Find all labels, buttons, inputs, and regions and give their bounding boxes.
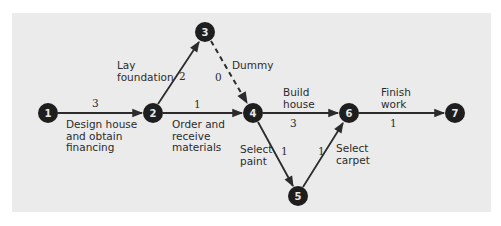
duration-2-3: 2: [179, 70, 186, 82]
svg-text:2: 2: [150, 108, 157, 119]
activity-label-select-paint: Select paint: [240, 144, 272, 167]
node-1: 1: [38, 103, 58, 123]
network-diagram: 1 2 3 4 5 6 7: [0, 0, 501, 226]
duration-1-2: 3: [92, 97, 99, 109]
svg-text:7: 7: [452, 108, 459, 119]
node-2: 2: [143, 103, 163, 123]
duration-3-4: 0: [215, 71, 222, 83]
svg-text:1: 1: [45, 108, 52, 119]
node-7: 7: [445, 103, 465, 123]
svg-text:6: 6: [346, 108, 353, 119]
activity-label-lay-foundation: Lay foundation: [117, 60, 174, 83]
node-6: 6: [339, 103, 359, 123]
duration-2-4: 1: [194, 98, 201, 110]
activity-label-finish-work: Finish work: [381, 87, 411, 110]
activity-label-order-materials: Order and receive materials: [172, 119, 225, 154]
duration-4-6: 3: [290, 117, 297, 129]
node-3: 3: [195, 22, 215, 42]
activity-label-build-house: Build house: [283, 87, 315, 110]
duration-5-6: 1: [318, 145, 325, 157]
svg-text:3: 3: [202, 27, 209, 38]
activity-label-design-house: Design house and obtain financing: [66, 119, 137, 154]
duration-4-5: 1: [281, 145, 288, 157]
activity-label-select-carpet: Select carpet: [336, 143, 370, 166]
node-4: 4: [243, 103, 263, 123]
node-5: 5: [288, 186, 308, 206]
svg-text:4: 4: [250, 108, 257, 119]
duration-6-7: 1: [390, 117, 397, 129]
svg-text:5: 5: [295, 191, 302, 202]
activity-label-dummy: Dummy: [232, 60, 273, 72]
